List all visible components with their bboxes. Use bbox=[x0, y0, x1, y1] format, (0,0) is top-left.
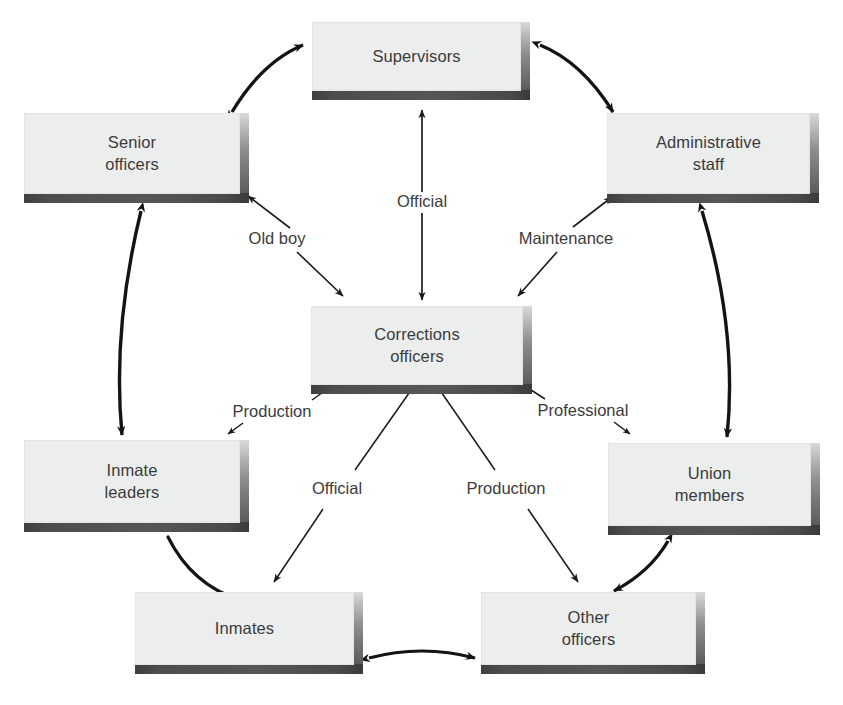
edge-union-otherofficers bbox=[614, 541, 668, 591]
edge-senior-corrections-lower bbox=[297, 252, 343, 296]
edge-senior-supervisors bbox=[232, 45, 303, 112]
node-face: Administrative staff bbox=[607, 113, 810, 194]
edge-label-professional: Professional bbox=[534, 401, 633, 419]
node-label-other-officers: Other officers bbox=[562, 607, 616, 649]
node-bevel-right bbox=[523, 306, 532, 385]
node-label-line: Inmate bbox=[106, 461, 157, 479]
diagram-canvas: Supervisors Senior officers Administrati… bbox=[0, 0, 843, 705]
node-face: Corrections officers bbox=[311, 306, 523, 385]
node-supervisors[interactable]: Supervisors bbox=[312, 22, 530, 100]
node-label-line: staff bbox=[693, 155, 724, 173]
edge-inmates-corrections-upper bbox=[355, 386, 414, 470]
node-bevel-right bbox=[696, 592, 705, 665]
node-label-line: officers bbox=[562, 630, 616, 648]
node-senior-officers[interactable]: Senior officers bbox=[24, 113, 249, 203]
node-inmate-leaders[interactable]: Inmate leaders bbox=[24, 440, 249, 532]
edge-label-maintenance: Maintenance bbox=[515, 229, 617, 247]
node-label-inmate-leaders: Inmate leaders bbox=[105, 460, 160, 502]
node-label-line: Senior bbox=[108, 133, 156, 151]
node-label-line: Corrections bbox=[374, 325, 459, 343]
node-administrative-staff[interactable]: Administrative staff bbox=[607, 113, 819, 203]
edge-label-official-top: Official bbox=[393, 192, 451, 210]
node-face: Other officers bbox=[481, 592, 696, 665]
node-bevel-right bbox=[521, 22, 530, 91]
edge-label-production-bottom: Production bbox=[463, 479, 550, 497]
node-bevel-bottom bbox=[24, 193, 249, 203]
edge-inmates-corrections-lower bbox=[274, 509, 323, 582]
edge-senior-corrections-upper bbox=[248, 196, 290, 228]
node-other-officers[interactable]: Other officers bbox=[481, 592, 705, 674]
node-label-inmates: Inmates bbox=[215, 618, 274, 639]
node-bevel-bottom bbox=[481, 664, 705, 674]
node-bevel-right bbox=[240, 113, 249, 194]
node-inmates[interactable]: Inmates bbox=[135, 592, 363, 674]
node-face: Inmates bbox=[135, 592, 354, 665]
edge-inmates-otherofficers bbox=[369, 651, 475, 658]
node-bevel-bottom bbox=[607, 193, 819, 203]
edge-admin-corrections-lower bbox=[518, 252, 557, 296]
node-label-line: members bbox=[675, 486, 744, 504]
node-label-line: officers bbox=[105, 155, 159, 173]
node-face: Inmate leaders bbox=[24, 440, 240, 523]
node-bevel-bottom bbox=[135, 664, 363, 674]
edge-admin-union bbox=[702, 211, 730, 437]
edge-label-old-boy: Old boy bbox=[245, 229, 310, 247]
node-bevel-right bbox=[240, 440, 249, 523]
edge-label-production-left: Production bbox=[229, 402, 316, 420]
node-label-supervisors: Supervisors bbox=[372, 46, 460, 67]
node-label-line: Union bbox=[688, 464, 732, 482]
node-bevel-right bbox=[354, 592, 363, 665]
node-face: Supervisors bbox=[312, 22, 521, 91]
edge-label-official-bottom: Official bbox=[308, 479, 366, 497]
edge-otherofficers-corrections-upper bbox=[437, 386, 495, 470]
edge-inmateleaders-inmates bbox=[168, 537, 240, 600]
node-bevel-right bbox=[810, 113, 819, 194]
node-bevel-bottom bbox=[608, 525, 820, 535]
node-bevel-bottom bbox=[24, 522, 249, 532]
edge-inmateleaders-corrections-lower bbox=[228, 423, 243, 434]
node-bevel-bottom bbox=[312, 90, 530, 100]
edge-union-corrections-lower bbox=[614, 422, 630, 434]
node-bevel-bottom bbox=[311, 384, 532, 394]
node-label-senior-officers: Senior officers bbox=[105, 132, 159, 174]
node-label-union-members: Union members bbox=[675, 463, 744, 505]
edge-supervisors-admin bbox=[540, 45, 613, 112]
node-label-line: leaders bbox=[105, 483, 160, 501]
node-label-line: officers bbox=[390, 347, 444, 365]
edge-otherofficers-corrections-lower bbox=[528, 509, 578, 582]
node-label-line: Administrative bbox=[656, 133, 761, 151]
node-label-administrative-staff: Administrative staff bbox=[656, 132, 761, 174]
node-union-members[interactable]: Union members bbox=[608, 443, 820, 535]
node-face: Senior officers bbox=[24, 113, 240, 194]
node-label-corrections-officers: Corrections officers bbox=[374, 324, 459, 366]
node-label-line: Other bbox=[568, 608, 610, 626]
node-bevel-right bbox=[811, 443, 820, 526]
node-corrections-officers[interactable]: Corrections officers bbox=[311, 306, 532, 394]
edge-senior-inmateleaders bbox=[119, 211, 141, 435]
node-face: Union members bbox=[608, 443, 811, 526]
